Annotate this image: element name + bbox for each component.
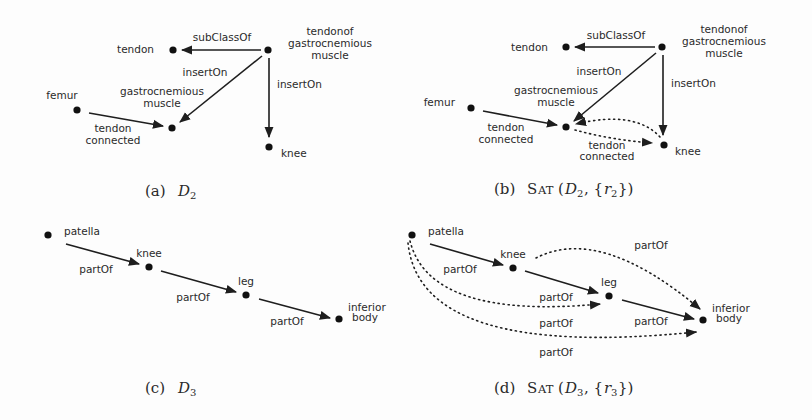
node-label: patella — [428, 225, 464, 237]
node-leg — [605, 292, 612, 299]
node-label: gastrocnemious — [288, 37, 372, 49]
edge-label: insertOn — [183, 66, 228, 78]
node-label: muscle — [537, 96, 575, 108]
svg-text:(a): (a) — [145, 182, 166, 200]
node-label: knee — [281, 147, 307, 159]
figure: tendon tendonof gastrocnemious muscle fe… — [0, 0, 812, 420]
svg-text:AT: AT — [537, 382, 554, 396]
node-label: muscle — [705, 47, 743, 59]
node-label: tendonof — [700, 23, 747, 35]
svg-text:D: D — [177, 182, 190, 200]
node-label: body — [716, 312, 742, 324]
node-tendon — [169, 46, 176, 53]
node-label: gastrocnemious — [120, 85, 204, 97]
panel-c: patella knee leg inferior body partOf pa… — [44, 225, 386, 398]
node-knee — [265, 143, 272, 150]
node-label: tendonof — [306, 25, 353, 37]
svg-text:S: S — [527, 379, 537, 397]
node-label: gastrocnemious — [682, 35, 766, 47]
svg-text:(c): (c) — [145, 379, 165, 397]
panel-b: tendon tendonof gastrocnemious muscle fe… — [424, 23, 766, 199]
caption-a: (a) D 2 — [145, 182, 196, 201]
svg-text:D: D — [564, 379, 577, 397]
edge-label: partOf — [443, 263, 477, 275]
edge-label: partOf — [539, 346, 573, 358]
node-label: patella — [64, 225, 100, 237]
svg-text:2: 2 — [611, 188, 617, 199]
svg-text:3: 3 — [611, 387, 617, 398]
edge-label: tendon — [95, 122, 132, 134]
edge-label: partOf — [176, 291, 210, 303]
edge-label: partOf — [539, 291, 573, 303]
edge-label: connected — [86, 134, 141, 146]
node-inferior-body — [335, 315, 342, 322]
node-label: gastrocnemious — [514, 84, 598, 96]
edge-tendon-connected-inverse — [576, 119, 660, 137]
svg-text:, {: , { — [584, 379, 603, 397]
node-patella — [408, 231, 415, 238]
node-knee — [509, 264, 516, 271]
node-label: knee — [675, 145, 701, 157]
svg-text:}): }) — [618, 379, 633, 397]
svg-text:2: 2 — [577, 188, 583, 199]
edge-partof — [161, 271, 236, 292]
caption-c: (c) D 3 — [145, 379, 196, 398]
node-tendon — [562, 43, 569, 50]
svg-text:S: S — [527, 180, 537, 198]
svg-text:(d): (d) — [494, 379, 515, 397]
node-label: leg — [601, 276, 617, 288]
edge-partof — [66, 244, 139, 264]
edge-label: partOf — [634, 239, 668, 251]
node-gastroc — [168, 124, 175, 131]
svg-text:3: 3 — [577, 387, 583, 398]
svg-text:D: D — [177, 379, 190, 397]
node-femur — [467, 104, 474, 111]
node-knee — [660, 141, 667, 148]
edge-label: partOf — [634, 315, 668, 327]
node-label: femur — [424, 96, 456, 108]
node-label: knee — [136, 247, 162, 259]
svg-text:(: ( — [558, 180, 564, 198]
edge-label: tendon — [488, 121, 525, 133]
node-gastroc — [562, 123, 569, 130]
svg-text:AT: AT — [537, 183, 554, 197]
edge-label: partOf — [79, 263, 113, 275]
caption-b: (b) S AT ( D 2 , { r 2 }) — [494, 180, 633, 199]
node-tendonof — [264, 46, 271, 53]
node-label: muscle — [143, 97, 181, 109]
node-knee — [145, 263, 152, 270]
node-tendonof — [658, 43, 665, 50]
edge-label: connected — [580, 150, 635, 162]
edge-label: insertOn — [577, 65, 622, 77]
node-label: leg — [238, 275, 254, 287]
node-label: muscle — [311, 49, 349, 61]
node-label: femur — [46, 89, 78, 101]
node-femur — [73, 106, 80, 113]
svg-text:(: ( — [558, 379, 564, 397]
edge-partof — [525, 271, 598, 293]
svg-text:}): }) — [618, 180, 633, 198]
panel-d: patella knee leg inferior body partOf pa… — [408, 225, 750, 398]
node-label: knee — [500, 248, 526, 260]
svg-text:2: 2 — [190, 190, 196, 201]
edge-label: insertOn — [277, 78, 322, 90]
svg-text:3: 3 — [190, 387, 196, 398]
edge-label: subClassOf — [587, 29, 646, 41]
edge-label: insertOn — [671, 77, 716, 89]
node-patella — [44, 231, 51, 238]
svg-text:D: D — [564, 180, 577, 198]
node-inferior-body — [699, 316, 706, 323]
edge-label: connected — [479, 133, 534, 145]
panel-a: tendon tendonof gastrocnemious muscle fe… — [46, 25, 372, 201]
caption-d: (d) S AT ( D 3 , { r 3 }) — [494, 379, 633, 398]
edge-label: partOf — [539, 317, 573, 329]
node-label: tendon — [117, 43, 154, 55]
svg-text:(b): (b) — [494, 180, 515, 198]
edge-label: partOf — [270, 315, 304, 327]
edge-label: subClassOf — [193, 31, 252, 43]
edge-partof — [430, 244, 503, 265]
node-label: body — [352, 311, 378, 323]
node-label: tendon — [511, 41, 548, 53]
node-leg — [242, 291, 249, 298]
svg-text:, {: , { — [584, 180, 603, 198]
